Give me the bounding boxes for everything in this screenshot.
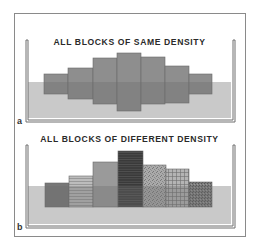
submerged-part: [68, 82, 93, 99]
submerged-part: [45, 186, 69, 207]
submerged-part: [44, 82, 68, 94]
panel-label: a: [17, 116, 23, 126]
panel-title: ALL BLOCKS OF DIFFERENT DENSITY: [40, 134, 218, 144]
submerged-part: [93, 186, 118, 207]
panel-a: ALL BLOCKS OF SAME DENSITYa: [17, 37, 235, 126]
submerged-part: [166, 186, 189, 207]
panel-b: ALL BLOCKS OF DIFFERENT DENSITYb: [17, 134, 235, 232]
submerged-part: [93, 82, 117, 104]
submerged-part: [189, 186, 212, 207]
submerged-part: [141, 82, 165, 104]
submerged-part: [189, 82, 212, 94]
buoyancy-diagram: ALL BLOCKS OF SAME DENSITYaALL BLOCKS OF…: [0, 0, 261, 245]
submerged-part: [117, 82, 141, 111]
panel-title: ALL BLOCKS OF SAME DENSITY: [54, 37, 206, 47]
submerged-part: [69, 186, 93, 207]
submerged-part: [165, 82, 189, 103]
submerged-part: [118, 186, 143, 207]
panel-label: b: [17, 222, 23, 232]
submerged-part: [143, 186, 166, 207]
